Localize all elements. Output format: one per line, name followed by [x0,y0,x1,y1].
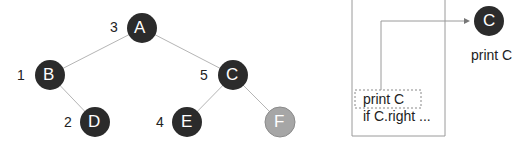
arrow-head-icon [464,18,470,24]
order-d: 2 [64,114,72,130]
node-d-label: D [88,112,100,132]
diagram-canvas [0,0,527,148]
order-e: 4 [156,114,164,130]
order-c: 5 [200,67,208,83]
output-caption: print C [471,47,512,63]
tree-nodes [35,13,295,137]
node-a-label: A [134,18,145,38]
stack-frame-line1: print C [363,91,404,107]
output-node-label: C [483,11,495,31]
order-b: 1 [17,67,25,83]
node-f-label: F [274,112,284,132]
order-a: 3 [110,19,118,35]
arrow-line [381,21,467,90]
stack-frame-line2: if C.right ... [363,108,431,124]
node-e-label: E [181,112,192,132]
node-b-label: B [43,65,54,85]
node-c-label: C [226,65,238,85]
